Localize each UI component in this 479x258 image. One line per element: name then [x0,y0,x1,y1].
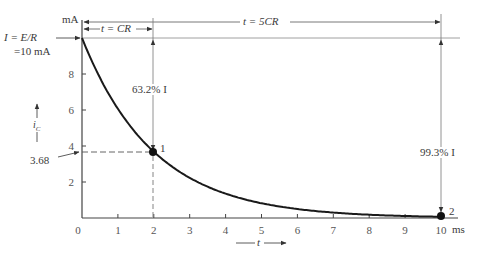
y-unit-label: mA [62,14,79,25]
point-2-marker [437,212,445,220]
ylabel: iC [33,120,40,133]
y-tick-label: 2 [62,176,74,188]
initial-value-label: =10 mA [14,46,50,57]
x-tick-label: 5 [259,224,265,236]
value-at-tau-leader [58,152,79,157]
x-unit-label: ms [452,224,465,235]
initial-current-label: I = E/R [4,32,37,43]
y-tick-label: 8 [62,68,74,80]
x-tick-label: 3 [187,224,193,236]
x-tick-label: 2 [151,224,157,236]
point-1-marker [149,148,157,156]
y-tick-label: 4 [62,140,74,152]
point-1-label: 1 [160,143,166,154]
x-tick-label: 1 [115,224,121,236]
x-tick-label: 8 [366,224,372,236]
drop-at-five-tau-label: 99.3% I [419,147,456,158]
x-tick-label: 6 [295,224,301,236]
drop-at-tau-label: 63.2% I [131,84,168,95]
tau-span-label: t = CR [101,23,131,34]
x-tick-label: 7 [331,224,337,236]
x-tick-label: 9 [402,224,408,236]
point-2-label: 2 [449,206,455,217]
five-tau-span-label: t = 5CR [243,16,279,27]
y-tick-label: 6 [62,104,74,116]
capacitor-discharge-current-chart [0,0,479,258]
x-tick-label: 4 [223,224,229,236]
xlabel: t [257,237,260,248]
value-at-tau-label: 3.68 [30,155,49,166]
x-tick-label: 10 [436,224,447,236]
x-tick-label: 0 [75,224,81,236]
discharge-curve [82,38,441,217]
